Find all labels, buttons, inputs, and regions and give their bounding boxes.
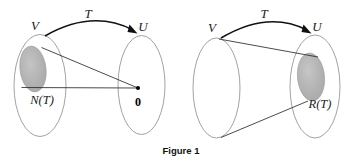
transformation-arrowhead: [128, 25, 138, 34]
range-shaded-region: [295, 52, 326, 102]
figure-caption: Figure 1: [163, 145, 201, 156]
codomain-set-u-outline: [118, 36, 165, 135]
figure-container: V U T N(T) 0 V U T R(T): [0, 0, 358, 166]
zero-vector-label: 0: [135, 95, 141, 109]
domain-label-v-2: V: [208, 20, 218, 35]
map-label-t-right: T: [260, 6, 268, 21]
domain-label-v: V: [31, 18, 41, 33]
panel-null-space: V U T N(T) 0: [14, 6, 165, 137]
codomain-label-u: U: [138, 19, 149, 34]
transformation-arc: [45, 21, 133, 36]
zero-vector-dot: [136, 86, 140, 90]
transformation-arrowhead-2: [302, 25, 312, 34]
null-space-label: N(T): [29, 93, 54, 107]
panel-range: V U T R(T): [193, 6, 340, 138]
mapping-line-lower: [22, 88, 139, 89]
transformation-arc-2: [221, 22, 307, 38]
figure-1-diagram: V U T N(T) 0 V U T R(T): [0, 0, 358, 166]
null-space-shaded-region: [17, 45, 48, 94]
codomain-label-u-2: U: [312, 19, 323, 34]
range-line-lower: [221, 101, 308, 138]
map-label-t-left: T: [84, 6, 92, 21]
domain-set-v-outline-2: [193, 38, 240, 138]
range-label: R(T): [308, 97, 332, 111]
